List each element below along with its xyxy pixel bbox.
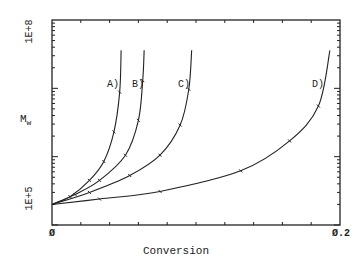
- curve-c: [52, 50, 192, 204]
- curve-d: [52, 50, 330, 204]
- y-max-label: 1E+8: [24, 19, 35, 43]
- curve-b: [52, 50, 144, 204]
- plot-frame: [52, 20, 340, 225]
- series-label-d: D): [312, 79, 324, 90]
- series-label-a: A): [107, 79, 119, 90]
- x-min-label: Ø: [49, 228, 55, 239]
- curve-a: [52, 50, 121, 204]
- y-min-label: 1E+5: [24, 186, 35, 210]
- series-label-c: C): [178, 79, 190, 90]
- axis-ticks: [52, 20, 340, 225]
- x-max-label: Ø.2: [332, 228, 350, 239]
- x-axis-title: Conversion: [143, 245, 209, 257]
- series-label-b: B): [132, 79, 144, 90]
- y-axis-main: M: [20, 113, 27, 125]
- chart-plot: [0, 0, 364, 267]
- curves: [52, 50, 330, 204]
- y-axis-sub: w: [27, 118, 32, 127]
- y-axis-title: Mw: [20, 113, 31, 127]
